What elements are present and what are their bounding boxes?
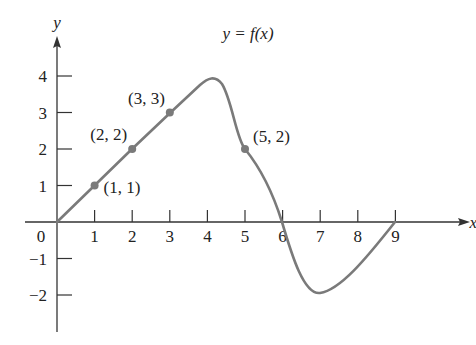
x-tick-label: 5 bbox=[241, 227, 250, 246]
point-label: (3, 3) bbox=[128, 89, 165, 108]
y-tick-label: −1 bbox=[29, 250, 47, 269]
y-ticks: 4321−1−2 bbox=[29, 67, 72, 305]
y-axis-label: y bbox=[51, 13, 61, 32]
x-tick-label: 2 bbox=[128, 227, 137, 246]
x-tick-label: 8 bbox=[354, 227, 363, 246]
y-tick-label: −2 bbox=[29, 286, 47, 305]
origin-label: 0 bbox=[37, 227, 46, 246]
marked-points: (1, 1)(2, 2)(3, 3)(5, 2) bbox=[90, 89, 289, 197]
curve-label: y = f(x) bbox=[220, 24, 273, 43]
x-tick-label: 9 bbox=[391, 227, 400, 246]
x-tick-label: 1 bbox=[90, 227, 99, 246]
x-ticks: 123456789 bbox=[90, 210, 399, 246]
y-tick-label: 3 bbox=[39, 104, 48, 123]
y-tick-label: 1 bbox=[39, 177, 48, 196]
y-tick-label: 2 bbox=[39, 140, 48, 159]
y-tick-label: 4 bbox=[39, 67, 48, 86]
marked-point bbox=[166, 109, 174, 117]
marked-point bbox=[128, 145, 136, 153]
marked-point bbox=[91, 182, 99, 190]
x-axis-label: x bbox=[468, 213, 476, 232]
x-tick-label: 4 bbox=[203, 227, 212, 246]
point-label: (5, 2) bbox=[253, 127, 290, 146]
point-label: (1, 1) bbox=[104, 178, 141, 197]
point-label: (2, 2) bbox=[90, 125, 127, 144]
function-graph: 123456789 4321−1−2 x y 0 (1, 1)(2, 2)(3,… bbox=[0, 0, 476, 345]
x-tick-label: 7 bbox=[316, 227, 325, 246]
x-tick-label: 3 bbox=[166, 227, 175, 246]
marked-point bbox=[241, 145, 249, 153]
